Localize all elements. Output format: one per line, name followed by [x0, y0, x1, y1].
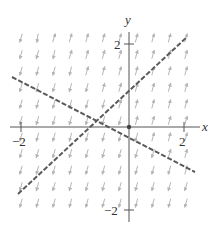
x-tick-label-2: 2	[179, 134, 186, 149]
field-arrow	[135, 133, 138, 142]
field-arrow	[69, 116, 71, 125]
field-arrow	[20, 199, 22, 208]
field-arrow	[119, 116, 121, 125]
field-arrow	[152, 199, 154, 208]
field-arrow	[185, 100, 187, 109]
field-arrow	[36, 116, 38, 125]
field-arrow	[86, 83, 88, 92]
field-arrow	[135, 149, 137, 158]
field-arrow	[168, 67, 170, 76]
field-arrow	[135, 50, 137, 59]
field-arrow	[185, 149, 187, 158]
field-arrow	[69, 50, 72, 59]
field-arrow	[36, 199, 38, 208]
field-arrow	[53, 50, 55, 59]
field-arrow	[119, 67, 121, 76]
field-arrow	[86, 50, 88, 59]
field-arrow	[69, 133, 71, 142]
field-arrow	[135, 100, 137, 109]
field-arrow	[152, 116, 154, 125]
field-arrow	[168, 166, 171, 175]
field-arrow	[86, 166, 88, 175]
field-arrow	[53, 83, 55, 92]
field-arrow	[86, 67, 89, 76]
field-arrow	[168, 133, 170, 142]
field-arrow	[152, 34, 154, 43]
field-arrow	[20, 166, 22, 175]
field-arrow	[86, 149, 88, 158]
field-arrow	[185, 199, 188, 208]
field-arrow	[69, 182, 71, 191]
field-arrow	[53, 116, 55, 125]
field-arrow	[168, 199, 170, 208]
field-arrow	[86, 34, 88, 43]
field-arrow	[102, 149, 104, 158]
field-arrow	[86, 100, 88, 109]
field-arrow	[119, 166, 121, 175]
field-arrow	[36, 50, 38, 59]
field-arrow	[69, 34, 72, 43]
field-arrow	[36, 67, 38, 76]
field-arrow	[135, 67, 137, 76]
field-arrow	[53, 67, 55, 76]
field-arrow	[36, 149, 38, 158]
field-arrow	[53, 34, 56, 43]
field-arrow	[37, 34, 38, 43]
field-arrow	[135, 116, 137, 125]
field-arrow	[152, 166, 154, 175]
field-arrow	[86, 133, 88, 142]
field-arrow	[102, 182, 104, 191]
field-arrow	[119, 199, 121, 208]
field-arrow	[168, 149, 170, 158]
field-arrow	[168, 100, 170, 109]
field-arrow	[152, 50, 154, 59]
field-arrow	[53, 199, 55, 208]
field-arrow	[102, 50, 104, 59]
field-arrow	[53, 149, 55, 158]
field-arrow	[168, 182, 171, 191]
field-arrow	[53, 166, 55, 175]
field-arrow	[168, 34, 170, 43]
field-arrow	[135, 199, 137, 208]
field-arrow	[86, 199, 88, 208]
x-axis-label: x	[201, 119, 208, 134]
field-arrow	[102, 133, 104, 142]
y-tick-label-2: 2	[114, 37, 121, 52]
field-arrow	[20, 67, 22, 76]
field-arrow	[20, 182, 22, 191]
field-arrow	[102, 166, 104, 175]
field-arrow	[152, 83, 154, 92]
field-arrow	[102, 67, 104, 76]
field-arrow	[152, 100, 154, 109]
field-arrow	[36, 182, 38, 191]
field-arrow	[168, 116, 170, 125]
field-arrow	[69, 149, 71, 158]
field-arrow	[36, 133, 38, 142]
field-arrow	[20, 83, 22, 92]
field-arrow	[69, 199, 71, 208]
x-tick-label-neg2: −2	[12, 134, 26, 149]
field-arrow	[135, 182, 137, 191]
field-arrow	[185, 182, 188, 191]
field-arrow	[119, 182, 121, 191]
field-arrow	[168, 83, 170, 92]
field-arrow	[69, 83, 71, 92]
field-arrow	[185, 83, 187, 92]
field-arrow	[102, 100, 104, 109]
positive-slope-dashed-line	[18, 37, 187, 194]
negative-slope-dashed-line	[12, 77, 195, 172]
field-arrow	[185, 50, 187, 59]
origin-point	[127, 125, 131, 129]
field-arrow	[53, 133, 55, 142]
field-arrow	[152, 133, 154, 142]
field-arrow	[119, 83, 121, 92]
field-arrow	[119, 149, 121, 158]
field-arrow	[102, 83, 104, 92]
field-arrow	[135, 166, 137, 175]
phase-portrait: y x −2 2 2 −2	[0, 0, 212, 227]
y-axis-label: y	[123, 12, 131, 27]
field-arrow	[185, 67, 187, 76]
field-arrow	[70, 67, 72, 76]
y-tick-label-neg2: −2	[104, 203, 118, 218]
field-arrow	[102, 34, 104, 43]
